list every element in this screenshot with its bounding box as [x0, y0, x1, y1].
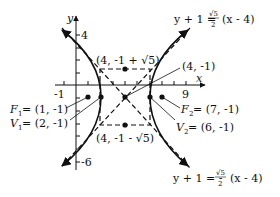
y-axis-label: y [66, 12, 74, 25]
y-tick-label-neg6: -6 [81, 156, 92, 169]
box-bottom-label: (4, -1 - √5) [96, 132, 154, 145]
svg-text:√5: √5 [216, 169, 225, 177]
x-axis-label: x [196, 72, 203, 85]
svg-text:F: F [180, 103, 189, 116]
svg-text:2: 2 [211, 21, 215, 29]
svg-text:= (6, -1): = (6, -1) [188, 121, 234, 134]
f1-label: F 1 = (1, -1) [9, 103, 68, 118]
svg-text:(x - 4): (x - 4) [222, 13, 255, 26]
svg-text:F: F [9, 103, 18, 116]
hyperbola-left-branch [62, 30, 101, 166]
svg-text:(x - 4): (x - 4) [230, 172, 263, 185]
f2-label: F 2 = (7, -1) [180, 103, 239, 118]
x-tick-label-neg1: -1 [54, 88, 65, 101]
svg-text:= (7, -1): = (7, -1) [193, 103, 239, 116]
f2-leader-line [162, 97, 180, 108]
v2-leader-line [150, 97, 175, 120]
asymptote-equation-top: y + 1 = √5 2 (x - 4) [173, 10, 255, 29]
y-tick-label-4: 4 [81, 29, 88, 42]
box-bottom-point [122, 122, 127, 127]
asymptote-equation-bottom: y + 1 = - √5 2 (x - 4) [172, 169, 263, 188]
box-top-point [122, 66, 127, 71]
hyperbola-diagram: x -1 9 y 4 -6 (4, -1 + √5) (4, -1 - √5) … [0, 0, 280, 197]
v1-leader-line [70, 97, 101, 120]
v1-label: V 1 = (2, -1) [10, 117, 68, 132]
svg-text:√5: √5 [209, 10, 218, 18]
center-leader-line [125, 68, 180, 97]
x-axis [55, 81, 205, 85]
v2-label: V 2 = (6, -1) [176, 121, 234, 136]
svg-text:2: 2 [218, 180, 222, 188]
f1-leader-line [66, 97, 88, 108]
svg-text:= (2, -1): = (2, -1) [22, 117, 68, 130]
svg-text:= (1, -1): = (1, -1) [22, 103, 68, 116]
box-top-label: (4, -1 + √5) [96, 54, 160, 67]
x-tick-label-9: 9 [182, 88, 189, 101]
center-label: (4, -1) [182, 60, 215, 73]
